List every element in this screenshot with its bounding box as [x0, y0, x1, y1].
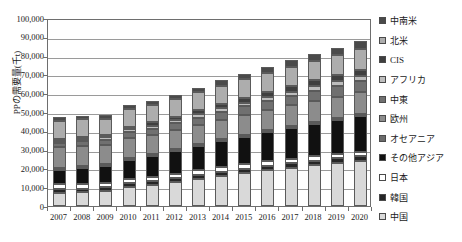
bar-segment[interactable] — [76, 192, 89, 206]
bar-segment[interactable] — [99, 119, 112, 135]
bar-stack[interactable] — [146, 101, 159, 206]
bar-segment[interactable] — [123, 109, 136, 126]
bar-segment[interactable] — [123, 187, 136, 206]
bar-segment[interactable] — [53, 193, 66, 206]
bar-segment[interactable] — [354, 81, 367, 92]
legend-item-北米[interactable]: 北米 — [379, 31, 461, 51]
bar-segment[interactable] — [146, 185, 159, 206]
bar-stack[interactable] — [331, 48, 344, 206]
bar-segment[interactable] — [146, 135, 159, 155]
bar-stack[interactable] — [192, 88, 205, 206]
legend-item-中東[interactable]: 中東 — [379, 89, 461, 109]
bar-stack[interactable] — [238, 74, 251, 206]
bar-segment[interactable] — [215, 141, 228, 167]
bar-segment[interactable] — [331, 48, 344, 55]
bar-segment[interactable] — [169, 123, 182, 130]
bar-segment[interactable] — [238, 137, 251, 164]
bar-segment[interactable] — [215, 86, 228, 104]
bar-segment[interactable] — [285, 67, 298, 87]
bar-segment[interactable] — [354, 92, 367, 114]
bar-stack[interactable] — [354, 41, 367, 206]
bar-segment[interactable] — [308, 54, 321, 61]
legend-item-中南米[interactable]: 中南米 — [379, 11, 461, 31]
chart-container: PPの需要量(千t) 100,00090,00080,00070,00060,0… — [0, 0, 462, 242]
bar-stack[interactable] — [76, 116, 89, 206]
bar-segment[interactable] — [261, 101, 274, 110]
bar-segment[interactable] — [169, 182, 182, 206]
bar-segment[interactable] — [99, 166, 112, 183]
legend-item-日本[interactable]: 日本 — [379, 168, 461, 188]
bar-segment[interactable] — [238, 106, 251, 114]
bar-segment[interactable] — [308, 101, 321, 122]
x-axis-tick-mark — [302, 207, 303, 211]
bar-stack[interactable] — [123, 105, 136, 206]
bar-stack[interactable] — [261, 67, 274, 206]
bar-segment[interactable] — [169, 130, 182, 149]
bar-stack[interactable] — [308, 54, 321, 206]
bar-segment[interactable] — [123, 138, 136, 158]
bar-segment[interactable] — [331, 97, 344, 119]
bar-segment[interactable] — [215, 120, 228, 140]
bar-segment[interactable] — [169, 151, 182, 173]
bar-segment[interactable] — [285, 168, 298, 206]
bar-segment[interactable] — [215, 176, 228, 206]
bar-segment[interactable] — [331, 86, 344, 97]
bar-segment[interactable] — [308, 124, 321, 156]
legend-item-CIS[interactable]: CIS — [379, 50, 461, 70]
legend: 中南米北米CISアフリカ中東欧州オセアニアその他アジア日本韓国中国 — [379, 11, 461, 227]
legend-swatch-icon — [379, 135, 386, 142]
bar-segment[interactable] — [261, 110, 274, 130]
bar-segment[interactable] — [53, 147, 66, 167]
bar-segment[interactable] — [53, 170, 66, 185]
bar-segment[interactable] — [285, 128, 298, 159]
bar-segment[interactable] — [123, 160, 136, 179]
bar-segment[interactable] — [354, 70, 367, 77]
bar-stack[interactable] — [215, 80, 228, 206]
bar-stack[interactable] — [99, 115, 112, 206]
bar-segment[interactable] — [146, 156, 159, 176]
bar-segment[interactable] — [308, 165, 321, 206]
legend-item-オセアニア[interactable]: オセアニア — [379, 129, 461, 149]
bar-segment[interactable] — [354, 49, 367, 70]
bar-segment[interactable] — [331, 55, 344, 75]
bar-segment[interactable] — [354, 41, 367, 49]
bar-segment[interactable] — [261, 170, 274, 206]
bar-segment[interactable] — [238, 173, 251, 206]
bar-segment[interactable] — [76, 168, 89, 184]
bar-segment[interactable] — [261, 132, 274, 161]
bar-segment[interactable] — [99, 191, 112, 206]
bar-segment[interactable] — [146, 105, 159, 122]
bar-segment[interactable] — [76, 146, 89, 166]
bar-stack[interactable] — [169, 95, 182, 207]
bar-segment[interactable] — [285, 105, 298, 126]
bar-segment[interactable] — [354, 116, 367, 151]
bar-segment[interactable] — [238, 79, 251, 98]
bar-stack[interactable] — [285, 60, 298, 206]
bar-segment[interactable] — [192, 125, 205, 144]
bar-stack[interactable] — [53, 117, 66, 206]
y-axis-tick-label: 80,000 — [0, 52, 44, 61]
bar-segment[interactable] — [238, 115, 251, 135]
bar-segment[interactable] — [169, 99, 182, 117]
legend-swatch-icon — [379, 17, 386, 24]
bar-segment[interactable] — [99, 145, 112, 164]
bar-segment[interactable] — [192, 146, 205, 170]
bar-segment[interactable] — [261, 73, 274, 92]
legend-item-アフリカ[interactable]: アフリカ — [379, 70, 461, 90]
bar-segment[interactable] — [215, 112, 228, 120]
legend-item-韓国[interactable]: 韓国 — [379, 187, 461, 207]
bar-segment[interactable] — [308, 61, 321, 81]
bar-segment[interactable] — [192, 118, 205, 125]
bar-segment[interactable] — [192, 179, 205, 206]
bar-segment[interactable] — [331, 120, 344, 154]
bar-segment[interactable] — [76, 119, 89, 136]
legend-item-欧州[interactable]: 欧州 — [379, 109, 461, 129]
legend-item-その他アジア[interactable]: その他アジア — [379, 148, 461, 168]
bar-segment[interactable] — [192, 92, 205, 110]
bar-segment[interactable] — [285, 96, 298, 105]
bar-segment[interactable] — [354, 161, 367, 206]
bar-segment[interactable] — [53, 121, 66, 139]
legend-item-中国[interactable]: 中国 — [379, 207, 461, 227]
bar-segment[interactable] — [308, 91, 321, 101]
bar-segment[interactable] — [331, 163, 344, 206]
